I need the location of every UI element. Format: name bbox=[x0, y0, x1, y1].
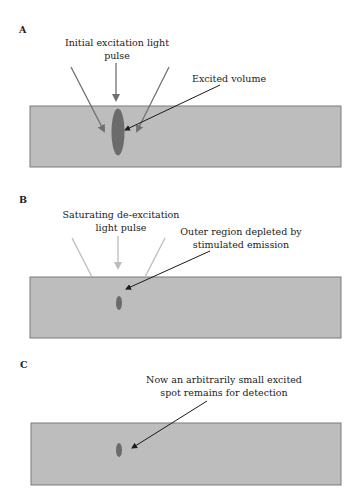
panel-letter-a: A bbox=[19, 24, 26, 35]
deexcitation-line-right-icon bbox=[145, 238, 165, 277]
deexcitation-pulse-label: Saturating de-excitation light pulse bbox=[60, 208, 182, 234]
small-spot-label-line1: Now an arbitrarily small excited bbox=[146, 373, 302, 386]
small-spot-label: Now an arbitrarily small excited spot re… bbox=[146, 373, 302, 399]
depleted-region-label-line2: stimulated emission bbox=[180, 238, 302, 251]
excitation-pulse-label-line1: Initial excitation light bbox=[60, 36, 174, 49]
panel-a-graphics bbox=[30, 63, 341, 167]
small-spot-label-line2: spot remains for detection bbox=[146, 386, 302, 399]
medium-slab-b bbox=[30, 277, 341, 338]
excitation-pulse-label-line2: pulse bbox=[60, 49, 174, 62]
panel-b-graphics bbox=[30, 236, 341, 338]
sted-diagram: A Initial excitation light pulse Excited… bbox=[0, 0, 356, 501]
excited-volume-label: Excited volume bbox=[188, 72, 270, 85]
deexcitation-line-left-icon bbox=[72, 238, 92, 277]
depleted-spot-b bbox=[116, 296, 122, 310]
medium-slab-a bbox=[30, 106, 341, 167]
excitation-pulse-label: Initial excitation light pulse bbox=[60, 36, 174, 62]
deexcitation-pulse-label-line2: light pulse bbox=[60, 221, 182, 234]
medium-slab-c bbox=[31, 423, 341, 485]
panel-letter-c: C bbox=[20, 359, 28, 370]
deexcitation-pulse-label-line1: Saturating de-excitation bbox=[60, 208, 182, 221]
excited-volume-spot bbox=[112, 109, 125, 156]
panel-letter-b: B bbox=[19, 194, 27, 205]
depleted-region-label-line1: Outer region depleted by bbox=[180, 225, 302, 238]
diagram-graphics bbox=[0, 0, 356, 501]
depleted-region-label: Outer region depleted by stimulated emis… bbox=[180, 225, 302, 251]
small-excited-spot-c bbox=[116, 443, 122, 457]
panel-c-graphics bbox=[31, 401, 341, 485]
